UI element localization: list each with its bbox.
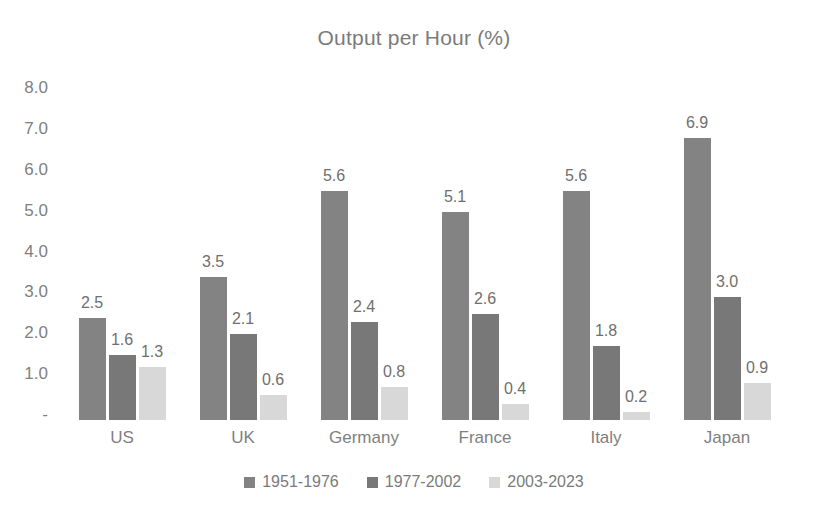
y-axis-tick: 6.0	[24, 161, 48, 178]
bar	[472, 314, 499, 420]
bar-value-label: 3.5	[190, 254, 236, 270]
legend-item[interactable]: 1977-2002	[367, 474, 462, 490]
bar	[593, 346, 620, 420]
bar-value-label: 6.9	[674, 115, 720, 131]
x-axis-category-label: France	[425, 429, 545, 446]
legend-label: 1951-1976	[262, 474, 339, 490]
bar-value-label: 0.8	[371, 364, 417, 380]
bar	[714, 297, 741, 420]
y-axis-tick: 7.0	[24, 120, 48, 137]
legend-swatch-icon	[244, 477, 255, 488]
x-axis-category-label: Italy	[546, 429, 666, 446]
legend-swatch-icon	[367, 477, 378, 488]
legend-item[interactable]: 1951-1976	[244, 474, 339, 490]
legend-label: 2003-2023	[507, 474, 584, 490]
legend-swatch-icon	[489, 477, 500, 488]
x-axis-category-label: Japan	[667, 429, 787, 446]
bar-value-label: 2.5	[69, 295, 115, 311]
bar-value-label: 5.6	[553, 168, 599, 184]
y-axis-tick: 2.0	[24, 324, 48, 341]
bar	[139, 367, 166, 420]
bar-group: 5.12.60.4	[442, 85, 529, 420]
bar-chart: Output per Hour (%) -1.02.03.04.05.06.07…	[0, 0, 828, 526]
bar-group: 2.51.61.3	[79, 85, 166, 420]
legend-label: 1977-2002	[385, 474, 462, 490]
bar-value-label: 1.8	[583, 323, 629, 339]
chart-legend: 1951-19761977-20022003-2023	[0, 474, 828, 490]
bar-value-label: 3.0	[704, 274, 750, 290]
bar-value-label: 0.4	[492, 381, 538, 397]
x-axis-category-label: US	[62, 429, 182, 446]
bar-group: 3.52.10.6	[200, 85, 287, 420]
bar-group: 6.93.00.9	[684, 85, 771, 420]
bar	[563, 191, 590, 420]
bar	[502, 404, 529, 420]
bar-value-label: 0.2	[613, 389, 659, 405]
bar	[200, 277, 227, 420]
bar-value-label: 2.6	[462, 291, 508, 307]
plot-area: 2.51.61.33.52.10.65.62.40.85.12.60.45.61…	[62, 80, 820, 420]
bar-group: 5.62.40.8	[321, 85, 408, 420]
x-axis-category-label: UK	[183, 429, 303, 446]
bar	[623, 412, 650, 420]
y-axis-tick: 4.0	[24, 243, 48, 260]
bar	[260, 395, 287, 420]
bar-value-label: 0.9	[734, 360, 780, 376]
bar-value-label: 0.6	[250, 372, 296, 388]
bar-value-label: 2.1	[220, 311, 266, 327]
y-axis: -1.02.03.04.05.06.07.08.0	[0, 0, 62, 440]
y-axis-tick: 3.0	[24, 283, 48, 300]
bar	[381, 387, 408, 420]
bar-value-label: 5.6	[311, 168, 357, 184]
legend-item[interactable]: 2003-2023	[489, 474, 584, 490]
y-axis-tick: 8.0	[24, 79, 48, 96]
bar-value-label: 2.4	[341, 299, 387, 315]
chart-title: Output per Hour (%)	[0, 26, 828, 50]
y-axis-tick: 5.0	[24, 202, 48, 219]
y-axis-tick: -	[42, 406, 48, 423]
bar	[109, 355, 136, 420]
bar-value-label: 1.3	[129, 344, 175, 360]
y-axis-tick: 1.0	[24, 365, 48, 382]
bar-value-label: 5.1	[432, 189, 478, 205]
bar	[442, 212, 469, 420]
x-axis-category-label: Germany	[304, 429, 424, 446]
bar-group: 5.61.80.2	[563, 85, 650, 420]
bar	[744, 383, 771, 420]
